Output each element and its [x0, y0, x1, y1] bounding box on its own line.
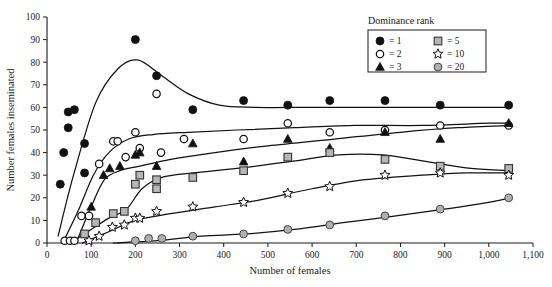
- legend-marker-filled-circle: [376, 37, 384, 45]
- x-tick-label: 100: [84, 250, 99, 260]
- point-filled-circle: [240, 97, 248, 105]
- point-gray-circle: [158, 235, 166, 243]
- point-filled-circle: [81, 169, 89, 177]
- point-gray-circle: [240, 230, 248, 238]
- legend-item-rank-2: = 2: [376, 49, 401, 59]
- y-tick-label: 20: [31, 193, 41, 203]
- point-gray-square: [109, 210, 117, 218]
- point-open-star: [239, 197, 249, 206]
- legend-label: = 20: [447, 62, 464, 72]
- point-gray-circle: [436, 205, 444, 213]
- point-filled-triangle: [87, 202, 96, 210]
- point-open-circle: [180, 135, 187, 142]
- y-tick-label: 30: [31, 171, 41, 181]
- y-tick-label: 100: [26, 12, 41, 22]
- point-open-star: [107, 222, 117, 231]
- point-filled-circle: [189, 106, 197, 114]
- fit-curve-rank-5: [74, 154, 511, 241]
- y-tick-label: 60: [31, 103, 41, 113]
- point-gray-circle: [189, 232, 197, 240]
- point-gray-square: [81, 230, 89, 238]
- y-tick-label: 40: [31, 148, 41, 158]
- point-open-circle: [122, 153, 129, 160]
- x-tick-label: 400: [217, 250, 232, 260]
- series-rank-20: [131, 194, 512, 245]
- point-filled-circle: [131, 36, 139, 44]
- point-open-circle: [71, 237, 78, 244]
- point-open-star: [94, 231, 104, 240]
- point-open-star: [325, 181, 335, 190]
- legend-label: = 1: [389, 36, 402, 46]
- legend-marker-gray-circle: [434, 63, 442, 71]
- axis-labels: Number of femalesNumber females insemina…: [5, 68, 331, 276]
- y-tick-label: 10: [31, 216, 41, 226]
- point-filled-circle: [81, 140, 89, 148]
- point-open-star: [119, 220, 129, 229]
- point-filled-circle: [56, 180, 64, 188]
- y-tick-label: 80: [31, 58, 41, 68]
- point-gray-square: [92, 219, 100, 227]
- x-tick-label: 300: [172, 250, 187, 260]
- point-open-circle: [132, 129, 139, 136]
- point-gray-square: [381, 156, 389, 164]
- point-filled-circle: [70, 106, 78, 114]
- fit-curve-rank-10: [82, 173, 511, 243]
- point-filled-circle: [505, 101, 513, 109]
- legend-marker-gray-square: [434, 37, 442, 45]
- point-filled-circle: [64, 124, 72, 132]
- legend-box: [368, 30, 486, 72]
- y-tick-label: 0: [35, 238, 40, 248]
- point-gray-circle: [505, 194, 513, 202]
- point-open-circle: [114, 138, 121, 145]
- point-filled-circle: [60, 149, 68, 157]
- point-filled-triangle: [116, 162, 125, 170]
- y-tick-label: 70: [31, 80, 41, 90]
- point-gray-square: [153, 176, 161, 184]
- series-rank-10: [84, 168, 514, 245]
- x-tick-label: 200: [128, 250, 143, 260]
- x-tick-label: 500: [261, 250, 276, 260]
- point-gray-square: [189, 174, 197, 182]
- point-filled-triangle: [189, 139, 198, 147]
- point-open-circle: [78, 212, 85, 219]
- legend-title: Dominance rank: [368, 15, 434, 26]
- point-open-circle: [326, 129, 333, 136]
- point-gray-circle: [381, 212, 389, 220]
- point-filled-circle: [284, 101, 292, 109]
- x-axis-title: Number of females: [249, 265, 330, 276]
- point-gray-square: [153, 185, 161, 193]
- legend-item-rank-5: = 5: [434, 36, 460, 46]
- legend-item-rank-20: = 20: [434, 62, 464, 72]
- chart-figure: 0102030405060708090100010020030040050060…: [0, 0, 552, 287]
- y-tick-label: 90: [31, 35, 41, 45]
- x-tick-label: 1,000: [478, 250, 500, 260]
- point-gray-square: [240, 167, 248, 175]
- legend-item-rank-1: = 1: [376, 36, 402, 46]
- point-open-circle: [157, 149, 164, 156]
- point-filled-triangle: [105, 164, 114, 172]
- point-gray-square: [132, 180, 140, 188]
- point-filled-triangle: [436, 134, 445, 142]
- point-open-circle: [153, 90, 160, 97]
- point-open-circle: [284, 120, 291, 127]
- legend-label: = 5: [447, 36, 460, 46]
- x-tick-label: 1,100: [522, 250, 544, 260]
- y-axis-title: Number females inseminated: [5, 68, 16, 192]
- chart-canvas: 0102030405060708090100010020030040050060…: [0, 0, 552, 287]
- point-open-star: [283, 188, 293, 197]
- point-gray-circle: [284, 226, 292, 234]
- point-gray-circle: [326, 221, 334, 229]
- point-filled-triangle: [283, 134, 292, 142]
- point-filled-circle: [326, 97, 334, 105]
- point-gray-square: [326, 149, 334, 157]
- point-gray-circle: [145, 235, 153, 243]
- legend-marker-open-circle: [376, 50, 383, 57]
- fit-curve-rank-20: [113, 198, 511, 243]
- point-filled-circle: [153, 72, 161, 80]
- point-open-circle: [437, 122, 444, 129]
- point-filled-circle: [381, 97, 389, 105]
- point-gray-square: [136, 171, 144, 179]
- x-tick-label: 800: [393, 250, 408, 260]
- point-open-circle: [240, 135, 247, 142]
- series-rank-5: [81, 149, 513, 238]
